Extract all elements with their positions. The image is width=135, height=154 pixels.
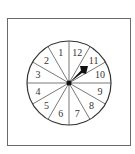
label-11: 11 <box>89 55 99 66</box>
label-9: 9 <box>97 86 102 97</box>
label-3: 3 <box>36 69 41 80</box>
spinner: 1 2 3 4 5 6 7 8 9 10 11 12 <box>0 0 135 154</box>
label-8: 8 <box>89 100 94 111</box>
label-4: 4 <box>36 86 41 97</box>
pivot-dot <box>67 81 72 86</box>
label-12: 12 <box>72 47 82 58</box>
label-10: 10 <box>95 69 105 80</box>
label-2: 2 <box>44 55 49 66</box>
label-1: 1 <box>58 47 63 58</box>
label-6: 6 <box>58 108 63 119</box>
label-7: 7 <box>75 108 80 119</box>
spinner-wheel: 1 2 3 4 5 6 7 8 9 10 11 12 <box>27 41 111 125</box>
label-5: 5 <box>44 100 49 111</box>
